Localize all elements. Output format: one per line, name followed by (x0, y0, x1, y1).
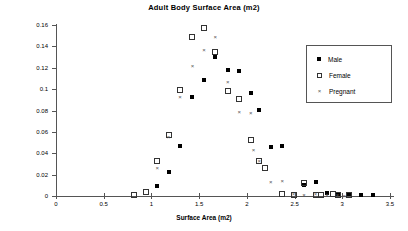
open-square-icon (317, 73, 322, 78)
data-point-male (371, 193, 375, 197)
x-tick-label: 3 (327, 201, 357, 207)
x-tick-label: 1 (136, 201, 166, 207)
y-tick-label: 0.08 (12, 108, 48, 114)
data-point-female (225, 88, 231, 94)
data-point-pregnant: × (291, 191, 297, 197)
data-point-pregnant: × (279, 178, 285, 184)
data-point-female (279, 191, 285, 197)
x-tick-label: 0 (41, 201, 71, 207)
x-axis-title: Surface Area (m2) (0, 214, 408, 221)
data-point-male (167, 170, 171, 174)
data-point-pregnant: × (154, 165, 160, 171)
y-tick-label: 0.04 (12, 150, 48, 156)
y-tick-label: 0 (12, 193, 48, 199)
cross-icon: × (317, 89, 322, 94)
legend-label-pregnant: Pregnant (329, 88, 355, 95)
data-point-male (190, 95, 194, 99)
data-point-male (280, 144, 284, 148)
chart-title: Adult Body Surface Area (m2) (0, 3, 408, 12)
y-tick-label: 0.06 (12, 129, 48, 135)
y-tick-label: 0.16 (12, 22, 48, 28)
data-point-female (177, 87, 183, 93)
data-point-female (212, 49, 218, 55)
legend-label-male: Male (328, 56, 342, 63)
data-point-female (189, 34, 195, 40)
data-point-male (269, 145, 273, 149)
data-point-female (301, 180, 307, 186)
chart-container: Adult Body Surface Area (m2) 00.020.040.… (0, 0, 408, 231)
y-tick-label: 0.12 (12, 65, 48, 71)
y-tick-label: 0.02 (12, 172, 48, 178)
data-point-male (226, 68, 230, 72)
data-point-male (155, 184, 159, 188)
data-point-male (359, 193, 363, 197)
data-point-pregnant: × (251, 147, 257, 153)
x-tick-label: 2 (232, 201, 262, 207)
chart-legend: Male Female × Pregnant (306, 45, 392, 103)
data-point-female (201, 25, 207, 31)
data-point-pregnant: × (256, 158, 262, 164)
data-point-female (154, 158, 160, 164)
data-point-pregnant: × (301, 192, 307, 198)
x-tick (390, 193, 391, 199)
data-point-female (262, 165, 268, 171)
x-tick-label: 3.5 (375, 201, 405, 207)
data-point-female (131, 192, 137, 198)
data-point-female (143, 189, 149, 195)
x-tick-label: 2.5 (280, 201, 310, 207)
data-point-male (202, 78, 206, 82)
data-point-male (257, 108, 261, 112)
data-point-pregnant: × (313, 191, 319, 197)
data-point-male (178, 144, 182, 148)
data-point-pregnant: × (201, 47, 207, 53)
legend-item-male: Male (317, 54, 342, 64)
data-point-male (314, 180, 318, 184)
data-point-pregnant: × (341, 193, 347, 199)
y-tick-label: 0.14 (12, 43, 48, 49)
y-tick-label: 0.1 (12, 86, 48, 92)
legend-label-female: Female (329, 72, 351, 79)
data-point-pregnant: × (268, 179, 274, 185)
x-tick-label: 0.5 (89, 201, 119, 207)
legend-item-pregnant: × Pregnant (317, 86, 355, 96)
data-point-pregnant: × (324, 192, 330, 198)
data-point-pregnant: × (248, 110, 254, 116)
data-point-pregnant: × (236, 109, 242, 115)
x-tick-label: 1.5 (184, 201, 214, 207)
data-point-male (237, 69, 241, 73)
data-point-male (249, 91, 253, 95)
legend-item-female: Female (317, 70, 351, 80)
data-point-female (248, 137, 254, 143)
data-point-pregnant: × (335, 192, 341, 198)
data-point-pregnant: × (177, 94, 183, 100)
data-point-female (236, 96, 242, 102)
data-point-pregnant: × (189, 63, 195, 69)
filled-square-icon (317, 57, 321, 61)
data-point-pregnant: × (212, 34, 218, 40)
data-point-pregnant: × (166, 134, 172, 140)
data-point-pregnant: × (225, 79, 231, 85)
